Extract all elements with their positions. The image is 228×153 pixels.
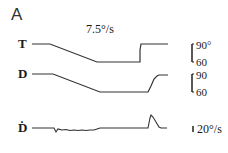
scale-bar-t	[192, 44, 194, 62]
trace-d	[32, 74, 168, 92]
scale-d-top: 90	[196, 70, 207, 81]
scale-d-dot-label: 20°/s	[197, 124, 222, 135]
trace-t	[32, 44, 168, 62]
trace-d-dot	[32, 115, 167, 132]
scale-bar-d	[192, 74, 194, 92]
scale-t-bottom: 60	[196, 57, 207, 68]
traces-plot	[0, 0, 228, 153]
scale-d-bottom: 60	[196, 87, 207, 98]
scale-t-top: 90°	[196, 40, 211, 51]
